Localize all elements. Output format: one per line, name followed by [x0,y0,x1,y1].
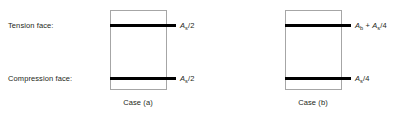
tension-face-label: Tension face: [8,22,54,30]
steel-area-subscript: s [360,78,363,84]
reinforcement-cases-figure: Tension face: Compression face: As/2 As/… [0,0,400,120]
steel-area-subscript: b [360,25,363,31]
rebar-bottom-case-a [110,77,176,80]
steel-area-subscript: s [185,25,188,31]
steel-area-suffix: /4 [363,74,369,83]
cross-section-case-b [285,10,342,90]
steel-area-suffix-2: /4 [380,21,386,30]
compression-face-label: Compression face: [8,75,72,83]
caption-case-b: Case (b) [253,99,373,107]
rebar-top-case-b [285,24,351,27]
steel-area-label-case-a-top: As/2 [180,22,194,30]
rebar-top-case-a [110,24,176,27]
steel-area-suffix: /2 [188,74,194,83]
steel-area-subscript: s [185,78,188,84]
cross-section-case-a [110,10,167,90]
steel-area-label-case-a-bottom: As/2 [180,75,194,83]
steel-area-label-case-b-top: Ab + As/4 [355,22,387,30]
steel-area-label-case-b-bottom: As/4 [355,75,369,83]
steel-area-operator: + [363,21,372,30]
caption-case-a: Case (a) [78,99,198,107]
rebar-bottom-case-b [285,77,351,80]
steel-area-subscript-2: s [377,25,380,31]
steel-area-suffix: /2 [188,21,194,30]
